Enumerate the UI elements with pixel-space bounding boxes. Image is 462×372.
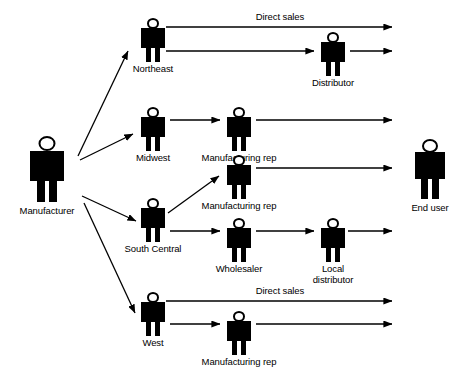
person-icon-leg-left — [232, 341, 237, 355]
person-icon-leg-right — [335, 62, 340, 76]
person-icon-leg-left — [326, 248, 331, 262]
node-local-distributor-label: Local distributor — [303, 263, 363, 285]
node-wholesaler[interactable] — [227, 218, 251, 262]
person-icon-torso — [141, 208, 165, 228]
node-mfg-rep-south-label: Manufacturing rep — [184, 200, 294, 211]
node-mfg-rep-south[interactable] — [227, 155, 251, 199]
person-icon-torso — [321, 228, 345, 248]
node-west-label: West — [108, 337, 198, 348]
person-icon-leg-left — [421, 179, 428, 199]
person-icon-leg-left — [232, 248, 237, 262]
node-end-user-label: End user — [385, 202, 462, 213]
node-wholesaler-label: Wholesaler — [194, 263, 284, 274]
node-west[interactable] — [141, 292, 165, 336]
distribution-channel-diagram: Manufacturer Northeast Distributor Midwe… — [0, 0, 462, 372]
person-icon-leg-right — [241, 137, 246, 151]
edge-label-direct-sales-northeast: Direct sales — [205, 11, 355, 22]
node-northeast-label: Northeast — [108, 63, 198, 74]
person-icon-leg-right — [155, 228, 160, 242]
person-icon-leg-right — [155, 137, 160, 151]
node-local-distributor[interactable] — [321, 218, 345, 262]
person-icon-head — [39, 136, 56, 151]
person-icon-leg-right — [335, 248, 340, 262]
node-mfg-rep-west-label: Manufacturing rep — [184, 356, 294, 367]
person-icon-leg-left — [37, 181, 45, 202]
person-icon-head — [422, 139, 438, 153]
person-icon-torso — [227, 117, 251, 137]
person-icon-leg-right — [432, 179, 439, 199]
node-mfg-rep-west[interactable] — [227, 311, 251, 355]
person-icon-leg-left — [146, 322, 151, 336]
edge-manufacturer-west — [84, 203, 135, 313]
node-midwest[interactable] — [141, 107, 165, 151]
person-icon-torso — [141, 302, 165, 322]
person-icon-torso — [227, 321, 251, 341]
person-icon-torso — [141, 28, 165, 48]
node-distributor[interactable] — [321, 32, 345, 76]
person-icon-leg-right — [241, 341, 246, 355]
edge-label-direct-sales-west: Direct sales — [205, 285, 355, 296]
person-icon-torso — [415, 152, 445, 179]
node-manufacturer-label: Manufacturer — [0, 205, 94, 216]
person-icon-torso — [227, 165, 251, 185]
person-icon-leg-left — [232, 137, 237, 151]
node-south-central-label: South Central — [105, 243, 201, 254]
person-icon-leg-right — [241, 248, 246, 262]
person-icon-leg-right — [155, 48, 160, 62]
person-icon-leg-left — [146, 228, 151, 242]
node-distributor-label: Distributor — [288, 77, 378, 88]
person-icon-leg-right — [241, 185, 246, 199]
person-icon-torso — [141, 117, 165, 137]
person-icon-torso — [227, 228, 251, 248]
person-icon-leg-left — [232, 185, 237, 199]
person-icon-leg-right — [155, 322, 160, 336]
node-manufacturer[interactable] — [30, 136, 64, 202]
person-icon-leg-left — [146, 137, 151, 151]
person-icon-leg-left — [146, 48, 151, 62]
person-icon-torso — [30, 151, 64, 181]
node-end-user[interactable] — [415, 139, 445, 199]
person-icon-leg-left — [326, 62, 331, 76]
node-mfg-rep-midwest[interactable] — [227, 107, 251, 151]
node-northeast[interactable] — [141, 18, 165, 62]
person-icon-torso — [321, 42, 345, 62]
person-icon-leg-right — [49, 181, 57, 202]
node-south-central[interactable] — [141, 198, 165, 242]
